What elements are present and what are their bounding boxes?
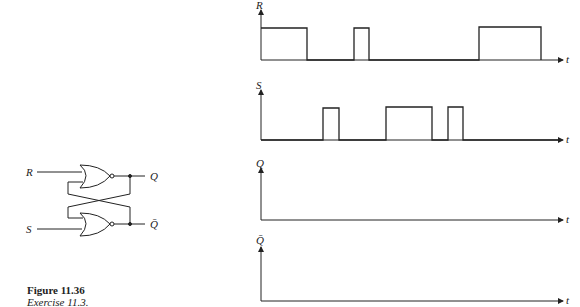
- waveform-r: [261, 27, 541, 60]
- timing-axis-qbar: [261, 247, 563, 301]
- qbar-output-label: Q̄: [150, 218, 158, 230]
- r-input-label: R: [25, 166, 33, 178]
- signal-label-r: R: [255, 0, 263, 11]
- time-label-q: t: [566, 213, 570, 225]
- time-label-qbar: t: [566, 294, 570, 306]
- timing-axis-s: [261, 90, 563, 140]
- figure-canvas: R S Q Q̄ R t S t Q t Q̄ t: [0, 0, 580, 307]
- s-input-label: S: [26, 223, 32, 235]
- figure-title: Figure 11.36: [27, 284, 85, 296]
- nor-gate-top: [80, 165, 110, 188]
- nor-gate-bottom: [80, 213, 110, 236]
- signal-label-qbar: Q̄: [256, 234, 264, 246]
- sr-latch-circuit: [37, 165, 145, 236]
- waveform-s: [261, 107, 560, 140]
- signal-label-s: S: [256, 79, 262, 91]
- timing-axis-r: [261, 10, 563, 60]
- time-label-r: t: [566, 53, 570, 65]
- q-output-label: Q: [150, 170, 158, 182]
- timing-axis-q: [261, 168, 563, 220]
- junction-dot-bottom: [129, 223, 132, 226]
- figure-subtitle: Exercise 11.3.: [27, 296, 88, 307]
- signal-label-q: Q: [256, 157, 264, 169]
- time-label-s: t: [566, 133, 570, 145]
